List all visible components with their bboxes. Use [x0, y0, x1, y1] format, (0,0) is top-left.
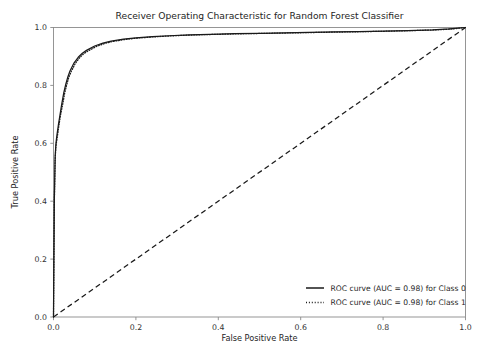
x-tick-label: 0.6 [294, 323, 306, 332]
y-axis-label: True Positive Rate [10, 136, 20, 210]
y-tick-label: 0.2 [35, 255, 47, 264]
y-tick-label: 1.0 [35, 23, 47, 32]
x-tick-label: 0.0 [47, 323, 59, 332]
x-axis-label: False Positive Rate [221, 333, 297, 343]
y-tick-label: 0.0 [35, 313, 47, 322]
legend-label-1: ROC curve (AUC = 0.98) for Class 1 [331, 298, 466, 307]
roc-figure: Receiver Operating Characteristic for Ra… [0, 0, 498, 351]
x-tick-label: 0.4 [212, 323, 224, 332]
y-tick-label: 0.4 [35, 197, 47, 206]
x-tick-label: 0.2 [130, 323, 142, 332]
roc-chart-canvas: Receiver Operating Characteristic for Ra… [0, 0, 498, 351]
y-tick-label: 0.8 [35, 81, 47, 90]
legend-label-0: ROC curve (AUC = 0.98) for Class 0 [331, 284, 466, 293]
x-tick-label: 0.8 [377, 323, 389, 332]
x-tick-label: 1.0 [459, 323, 471, 332]
y-tick-label: 0.6 [35, 139, 47, 148]
chart-title: Receiver Operating Characteristic for Ra… [116, 10, 404, 21]
